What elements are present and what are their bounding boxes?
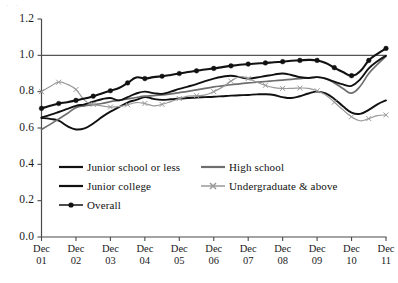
series-marker-overall bbox=[298, 58, 303, 63]
series-marker-overall bbox=[160, 74, 165, 79]
series-marker-undergraduate-above bbox=[211, 89, 216, 94]
series-marker-overall bbox=[194, 68, 199, 73]
series-marker-overall bbox=[177, 71, 182, 76]
series-marker-undergraduate-above bbox=[73, 87, 78, 92]
series-marker-overall bbox=[315, 58, 320, 63]
series-marker-overall bbox=[263, 61, 268, 66]
x-axis-label-month: Dec bbox=[274, 243, 291, 254]
series-marker-overall bbox=[56, 101, 61, 106]
series-marker-overall bbox=[229, 64, 234, 69]
y-axis-label: 0.4 bbox=[2, 157, 34, 169]
legend-item-high-school[interactable]: High school bbox=[200, 161, 284, 173]
legend-swatch-junior-school-or-less-icon bbox=[58, 161, 84, 173]
y-axis-label: 1.0 bbox=[2, 48, 34, 60]
legend-marker-dot-icon bbox=[68, 202, 73, 207]
series-marker-overall bbox=[280, 59, 285, 64]
y-axis-label: 1.2 bbox=[2, 12, 34, 24]
legend-swatch-overall-icon bbox=[58, 199, 84, 211]
y-axis-label: 0.6 bbox=[2, 121, 34, 133]
series-marker-undergraduate-above bbox=[349, 114, 354, 119]
x-axis-label-month: Dec bbox=[378, 243, 395, 254]
legend-item-junior-school-or-less[interactable]: Junior school or less bbox=[58, 161, 180, 173]
chart-container: · · 1.21.00.80.60.40.20.0 Dec01Dec02Dec0… bbox=[0, 0, 398, 283]
series-marker-overall bbox=[108, 88, 113, 93]
series-marker-overall bbox=[39, 106, 44, 111]
series-marker-overall bbox=[143, 76, 148, 81]
x-axis-label-month: Dec bbox=[67, 243, 84, 254]
legend-label: Overall bbox=[87, 199, 121, 211]
series-marker-overall bbox=[246, 62, 251, 67]
x-axis-label-year: 11 bbox=[366, 255, 398, 267]
x-axis-label-month: Dec bbox=[171, 243, 188, 254]
x-axis-label-month: Dec bbox=[136, 243, 153, 254]
line-chart-plot bbox=[0, 0, 398, 283]
x-axis-label-month: Dec bbox=[205, 243, 222, 254]
x-axis-label-month: Dec bbox=[33, 243, 50, 254]
series-marker-overall bbox=[384, 46, 389, 51]
series-marker-undergraduate-above bbox=[228, 79, 233, 84]
y-axis-label: 0.8 bbox=[2, 84, 34, 96]
series-marker-undergraduate-above bbox=[332, 100, 337, 105]
legend-swatch-junior-college-icon bbox=[58, 180, 84, 192]
x-axis-label: Dec11 bbox=[366, 243, 398, 266]
series-marker-overall bbox=[74, 98, 79, 103]
chart-series-group bbox=[39, 46, 389, 130]
legend-item-overall[interactable]: Overall bbox=[58, 199, 121, 211]
series-marker-overall bbox=[125, 81, 130, 86]
legend-label: Junior school or less bbox=[87, 161, 180, 173]
series-marker-overall bbox=[332, 65, 337, 70]
y-axis-label: 0.0 bbox=[2, 230, 34, 242]
legend-swatch-high-school-icon bbox=[200, 161, 226, 173]
legend-label: Undergraduate & above bbox=[229, 180, 338, 192]
y-axis-label: 0.2 bbox=[2, 193, 34, 205]
series-marker-overall bbox=[211, 66, 216, 71]
x-axis-label-month: Dec bbox=[102, 243, 119, 254]
legend-item-undergraduate-above[interactable]: Undergraduate & above bbox=[200, 180, 338, 192]
series-marker-overall bbox=[349, 73, 354, 78]
legend-item-junior-college[interactable]: Junior college bbox=[58, 180, 151, 192]
x-axis-label-month: Dec bbox=[309, 243, 326, 254]
x-axis-label-month: Dec bbox=[343, 243, 360, 254]
legend-swatch-undergraduate-above-icon bbox=[200, 180, 226, 192]
x-axis-label-month: Dec bbox=[240, 243, 257, 254]
legend-label: High school bbox=[229, 161, 284, 173]
legend-label: Junior college bbox=[87, 180, 151, 192]
series-marker-overall bbox=[91, 94, 96, 99]
series-marker-overall bbox=[366, 58, 371, 63]
